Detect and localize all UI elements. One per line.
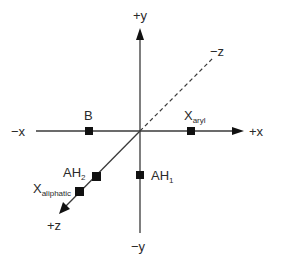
point-X-aryl-label: Xaryl <box>184 109 206 122</box>
point-B-label: B <box>84 109 93 122</box>
plus-z-label: +z <box>47 219 61 232</box>
point-X-aliphatic-subscript: aliphatic <box>42 189 71 198</box>
point-AH2-label: AH2 <box>63 166 86 179</box>
point-X-aliphatic-text: X <box>33 181 42 196</box>
axes-svg <box>0 0 281 261</box>
point-AH1-text: AH <box>151 168 169 183</box>
plus-x-arrowhead-icon <box>232 127 244 135</box>
plus-x-label: +x <box>249 125 263 138</box>
point-AH1-marker <box>136 171 144 179</box>
point-AH1-subscript: 1 <box>169 176 173 185</box>
point-AH2-subscript: 2 <box>81 173 85 182</box>
minus-y-label: −y <box>131 240 145 253</box>
point-B-marker <box>85 127 93 135</box>
coordinate-diagram: +y −y −x +x +z −z B Xaryl AH2 Xaliphatic… <box>0 0 281 261</box>
minus-z-label: −z <box>210 45 224 58</box>
point-X-aliphatic-label: Xaliphatic <box>33 182 71 195</box>
point-AH1-label: AH1 <box>151 169 174 182</box>
minus-x-label: −x <box>11 125 25 138</box>
point-X-aryl-marker <box>187 127 195 135</box>
point-AH2-text: AH <box>63 165 81 180</box>
point-AH2-marker <box>92 172 101 181</box>
plus-y-label: +y <box>133 9 147 22</box>
point-X-aryl-text: X <box>184 108 193 123</box>
point-B-text: B <box>84 108 93 123</box>
point-X-aliphatic-marker <box>75 187 84 196</box>
plus-y-arrowhead-icon <box>136 28 144 40</box>
point-X-aryl-subscript: aryl <box>193 116 206 125</box>
